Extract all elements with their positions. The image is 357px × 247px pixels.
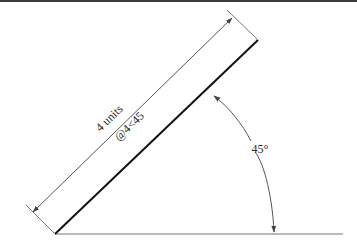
main-line [55, 40, 258, 234]
angle-arc-upper [214, 96, 251, 141]
extension-line-end [227, 10, 258, 40]
angle-arc [255, 152, 274, 232]
angle-label: 45° [252, 142, 269, 156]
drawing-canvas: 4 units @4<45 45° [0, 0, 357, 247]
extension-line-start [26, 205, 55, 234]
